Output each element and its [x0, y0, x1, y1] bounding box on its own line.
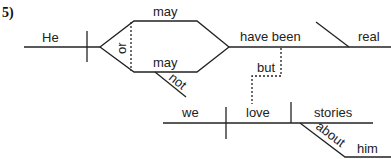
- verb-have-been: have been: [240, 29, 301, 44]
- object-him: him: [357, 141, 378, 156]
- but-connector-line: [252, 48, 281, 104]
- predicate-adjective-slash: [316, 22, 349, 47]
- upper-verb-may: may: [153, 4, 178, 19]
- predicate-adjective-real: real: [358, 29, 380, 44]
- subject-we: we: [181, 105, 199, 120]
- verb-love: love: [246, 105, 270, 120]
- modifier-not: not: [166, 70, 190, 93]
- object-stories: stories: [314, 105, 353, 120]
- lower-verb-may: may: [153, 55, 178, 70]
- sentence-diagram: 5) He or may may not have been real but …: [0, 0, 391, 159]
- diagram-number: 5): [2, 5, 14, 21]
- subject-he: He: [42, 30, 59, 45]
- connector-but: but: [257, 60, 275, 75]
- conjunction-or: or: [114, 42, 129, 54]
